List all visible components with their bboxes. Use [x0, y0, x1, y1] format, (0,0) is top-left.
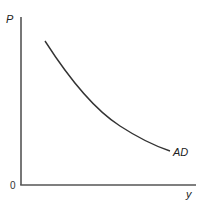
ad-chart: P y 0 AD: [0, 0, 208, 210]
x-axis-label: y: [185, 188, 193, 200]
ad-curve-label: AD: [172, 146, 188, 158]
ad-curve: [45, 41, 170, 151]
origin-label: 0: [10, 180, 16, 191]
y-axis-label: P: [6, 13, 14, 25]
